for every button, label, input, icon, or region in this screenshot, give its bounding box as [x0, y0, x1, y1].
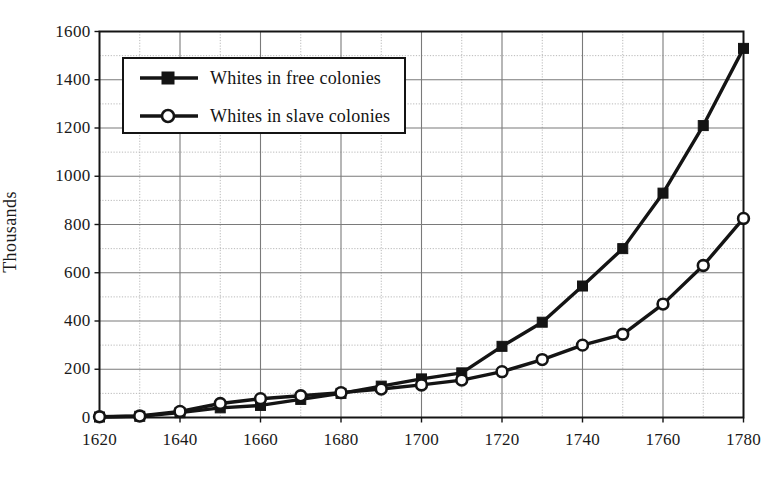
y-tick-label: 800: [64, 215, 90, 235]
y-tick-label: 1000: [55, 166, 90, 186]
y-axis-label: Thousands: [0, 191, 21, 273]
y-tick-label: 0: [82, 408, 91, 428]
open-circle-marker-icon: [138, 106, 200, 126]
legend-label-free-colonies: Whites in free colonies: [210, 68, 381, 89]
legend-item-free-colonies: Whites in free colonies: [124, 59, 404, 97]
x-tick-label: 1740: [565, 430, 600, 450]
x-tick-label: 1720: [484, 430, 519, 450]
legend-label-slave-colonies: Whites in slave colonies: [210, 106, 390, 127]
y-tick-label: 1200: [55, 118, 90, 138]
x-tick-label: 1620: [82, 430, 117, 450]
chart-figure: Thousands 02004006008001000120014001600 …: [0, 0, 780, 479]
x-tick-label: 1660: [243, 430, 278, 450]
x-tick-label: 1640: [162, 430, 197, 450]
x-tick-label: 1680: [323, 430, 358, 450]
filled-square-marker-icon: [138, 68, 200, 88]
y-tick-label: 1400: [55, 70, 90, 90]
y-tick-label: 1600: [55, 22, 90, 42]
y-tick-label: 600: [64, 263, 90, 283]
x-tick-label: 1760: [645, 430, 680, 450]
x-tick-label: 1700: [404, 430, 439, 450]
x-tick-label: 1780: [726, 430, 761, 450]
y-tick-label: 400: [64, 311, 90, 331]
legend-item-slave-colonies: Whites in slave colonies: [124, 97, 404, 135]
y-tick-label: 200: [64, 359, 90, 379]
chart-legend: Whites in free colonies Whites in slave …: [122, 57, 406, 134]
